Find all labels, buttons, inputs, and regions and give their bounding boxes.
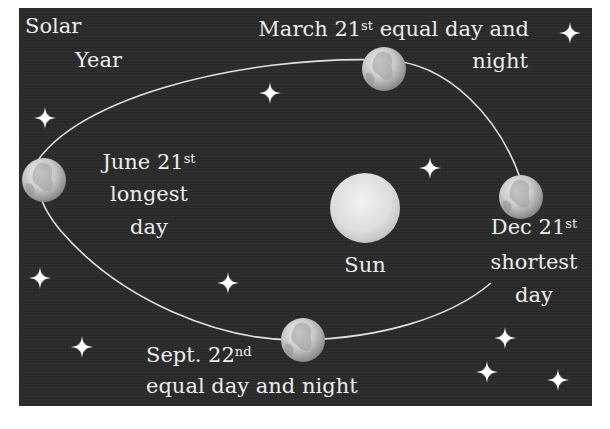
star-icon: [419, 157, 441, 179]
label-september: Sept. 22nd: [146, 343, 251, 368]
star-icon: [217, 272, 239, 294]
september-date: Sept. 22: [146, 343, 235, 367]
star-icon: [29, 267, 51, 289]
june-desc-line1: longest: [74, 182, 224, 207]
december-desc-line2: day: [474, 283, 594, 308]
march-desc: equal day and: [373, 17, 529, 41]
june-desc-line2: day: [74, 215, 224, 240]
label-december: Dec 21st: [474, 215, 594, 240]
march-date: March 21: [258, 17, 361, 41]
earth-june-icon: [22, 158, 66, 202]
star-icon: [494, 327, 516, 349]
september-date-suffix: nd: [235, 344, 252, 359]
star-icon: [476, 361, 498, 383]
star-icon: [559, 22, 581, 44]
december-date-suffix: st: [565, 216, 577, 231]
earth-march-icon: [362, 47, 406, 91]
december-date: Dec 21: [491, 215, 565, 239]
star-icon: [71, 336, 93, 358]
march-date-suffix: st: [361, 18, 373, 33]
earth-september-icon: [281, 318, 325, 362]
sun-label: Sun: [325, 253, 405, 278]
june-date: June 21: [102, 150, 183, 174]
earth-december-icon: [499, 175, 543, 219]
title-line-2: Year: [75, 48, 122, 73]
star-icon: [547, 369, 569, 391]
label-june: June 21st: [74, 150, 224, 175]
september-desc: equal day and night: [146, 374, 358, 399]
star-icon: [34, 107, 56, 129]
title-line-1: Solar: [25, 14, 81, 39]
june-date-suffix: st: [184, 151, 196, 166]
sun-icon: [330, 173, 400, 243]
december-desc-line1: shortest: [474, 250, 594, 275]
label-march-line2: night: [420, 49, 528, 74]
star-icon: [259, 82, 281, 104]
label-march: March 21st equal day and: [236, 17, 529, 42]
